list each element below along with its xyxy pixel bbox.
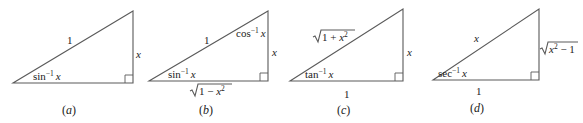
opposite-label: x2 − 1 bbox=[540, 42, 578, 55]
adjacent-label: 1 bbox=[476, 85, 482, 97]
top-angle-label: cos−1x bbox=[236, 26, 266, 39]
hypotenuse-label: x bbox=[473, 32, 479, 44]
angle-label: sec−1x bbox=[438, 66, 467, 79]
adjacent-label: 1 − x2 bbox=[190, 84, 232, 97]
angle-label: sin−1x bbox=[33, 69, 61, 82]
triangle-a: 1 x sin−1x (a) bbox=[13, 11, 141, 117]
svg-text:x2 − 1: x2 − 1 bbox=[548, 42, 575, 55]
svg-text:1 − x2: 1 − x2 bbox=[199, 84, 225, 97]
opposite-label: x bbox=[406, 46, 412, 58]
triangle-b: 1 x cos−1x sin−1x 1 − x2 (b) bbox=[149, 11, 277, 117]
caption: (a) bbox=[62, 103, 76, 117]
triangle-d: x x2 − 1 sec−1x 1 (d) bbox=[433, 9, 578, 115]
angle-label: sin−1x bbox=[168, 67, 196, 80]
hypotenuse-label: 1 bbox=[67, 34, 73, 46]
opposite-label: x bbox=[271, 46, 277, 58]
triangle-a-outline bbox=[13, 11, 133, 83]
adjacent-label: 1 bbox=[344, 88, 350, 100]
caption: (b) bbox=[199, 103, 213, 117]
right-angle-marker bbox=[260, 73, 268, 81]
right-angle-marker bbox=[125, 75, 133, 83]
caption: (c) bbox=[337, 103, 350, 117]
triangle-b-outline bbox=[149, 11, 268, 81]
right-angle-marker bbox=[395, 73, 403, 81]
svg-text:1 + x2: 1 + x2 bbox=[322, 30, 348, 43]
angle-label: tan−1x bbox=[305, 67, 333, 80]
opposite-label: x bbox=[135, 48, 141, 60]
hypotenuse-label: 1 + x2 bbox=[313, 30, 355, 43]
hypotenuse-label: 1 bbox=[204, 34, 210, 46]
caption: (d) bbox=[470, 101, 484, 115]
right-angle-marker bbox=[531, 72, 539, 80]
triangle-c: 1 + x2 x tan−1x 1 (c) bbox=[290, 9, 412, 117]
